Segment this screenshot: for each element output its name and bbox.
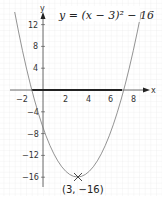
y-tick: 8 bbox=[33, 42, 38, 51]
x-tick: −2 bbox=[16, 95, 28, 104]
x-tick: 8 bbox=[131, 95, 136, 104]
x-tick: 2 bbox=[63, 95, 68, 104]
x-tick: 6 bbox=[108, 95, 113, 104]
equation-label: y = (x − 3)² − 16 bbox=[58, 9, 154, 22]
y-axis-label: y bbox=[40, 4, 45, 13]
y-tick: −12 bbox=[22, 151, 39, 160]
vertex-label: (3, −16) bbox=[62, 184, 104, 195]
y-tick: 12 bbox=[28, 21, 38, 30]
y-tick: −16 bbox=[22, 173, 39, 182]
parabola-graph: x y −2 2 4 6 8 12 8 4 −4 −8 −12 −16 (3, … bbox=[0, 0, 162, 207]
x-tick: 4 bbox=[86, 95, 91, 104]
y-tick: 4 bbox=[33, 64, 38, 73]
y-tick: −8 bbox=[27, 130, 39, 139]
x-axis-label: x bbox=[151, 86, 156, 95]
